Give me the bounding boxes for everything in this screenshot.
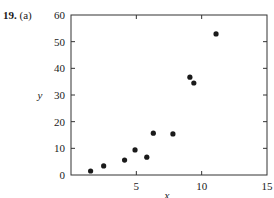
data-point xyxy=(151,131,156,136)
y-axis-title: y xyxy=(37,89,43,101)
data-point xyxy=(144,155,149,160)
y-tick-label: 30 xyxy=(54,89,66,101)
data-point xyxy=(191,80,196,85)
y-tick-label: 10 xyxy=(54,142,66,154)
y-tick-label: 20 xyxy=(54,116,66,128)
data-point xyxy=(187,75,192,80)
y-tick-label: 40 xyxy=(54,62,66,74)
scatter-plot: 010203040506051015xy xyxy=(0,0,273,198)
x-tick-label: 10 xyxy=(196,180,208,192)
x-tick-label: 15 xyxy=(262,180,274,192)
x-axis-title: x xyxy=(164,189,170,198)
data-point xyxy=(213,31,218,36)
x-tick-label: 5 xyxy=(134,180,140,192)
data-point xyxy=(101,163,106,168)
y-tick-label: 60 xyxy=(54,9,66,21)
data-point xyxy=(88,168,93,173)
data-point xyxy=(122,157,127,162)
plot-frame xyxy=(71,15,267,175)
data-point xyxy=(170,131,175,136)
y-tick-label: 50 xyxy=(54,36,66,48)
data-point xyxy=(132,147,137,152)
y-tick-label: 0 xyxy=(60,169,66,181)
